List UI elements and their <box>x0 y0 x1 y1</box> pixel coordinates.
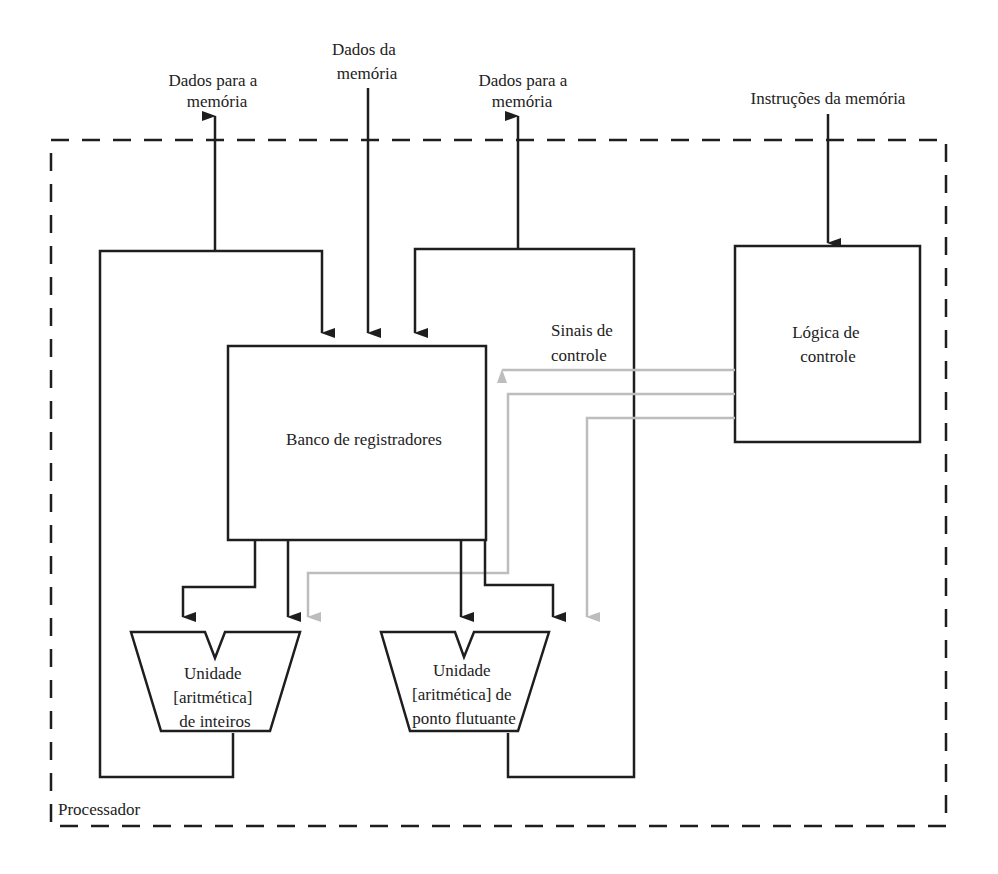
register-to-integer-paths <box>183 540 288 617</box>
instructions-from-memory-label: Instruções da memória <box>751 89 906 108</box>
processor-label: Processador <box>58 800 140 819</box>
data-from-memory-label: Dados da memória <box>332 40 400 83</box>
processor-diagram: Processador Banco de registradores Lógic… <box>0 0 998 874</box>
data-to-memory-right-label: Dados para a memória <box>479 71 572 111</box>
data-to-memory-left-label: Dados para a memória <box>169 71 262 111</box>
control-signals-label: Sinais de controle <box>551 321 617 365</box>
register-bank-label: Banco de registradores <box>286 430 442 449</box>
integer-unit-label: Unidade [aritmética] de inteiros <box>173 664 257 731</box>
control-logic <box>735 246 920 442</box>
